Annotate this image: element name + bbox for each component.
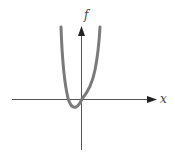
x-axis-arrow-icon bbox=[147, 96, 157, 103]
graph-figure: f x bbox=[0, 0, 175, 155]
function-curve bbox=[61, 27, 100, 107]
y-axis-label: f bbox=[83, 8, 91, 22]
x-axis-label: x bbox=[160, 92, 167, 106]
y-axis-arrow-icon bbox=[78, 26, 85, 36]
